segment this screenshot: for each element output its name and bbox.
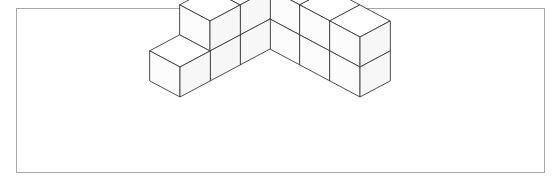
cube-face-top — [210, 0, 270, 5]
figure-canvas-root: Isometric unit-cube stack figure Line dr… — [0, 0, 560, 185]
figure-border-frame — [16, 8, 545, 173]
cube-face-top — [270, 0, 330, 5]
